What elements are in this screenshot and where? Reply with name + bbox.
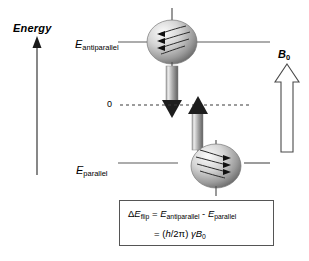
down-gradient-arrow-shaft	[166, 66, 178, 104]
formula-e-anti-sub: antiparallel	[167, 213, 200, 220]
emission-arrow	[162, 66, 182, 118]
level-label-antiparallel: Eantiparallel	[75, 34, 119, 52]
formula-minus: -	[202, 208, 205, 219]
precession-arrowheads-right	[223, 155, 231, 175]
formula-paren-close: )	[185, 228, 188, 239]
b0-subscript: 0	[286, 53, 290, 62]
energy-axis-title: Energy	[13, 22, 52, 34]
formula-line-2: = (h/2π) γB0	[154, 228, 206, 240]
formula-equals-2: =	[154, 228, 160, 239]
formula-e-flip-sub: flip	[141, 213, 150, 220]
formula-slash-two: /2	[171, 228, 179, 239]
nucleus-antiparallel	[147, 8, 197, 70]
level-subscript-antiparallel: antiparallel	[82, 43, 118, 52]
down-gradient-arrow-icon	[162, 100, 182, 118]
precession-arrowheads-left	[157, 31, 165, 51]
level-label-parallel: Eparallel	[76, 160, 108, 178]
formula-box: ΔEflip = Eantiparallel - Eparallel = (h/…	[119, 200, 274, 246]
up-gradient-arrow-shaft	[192, 112, 203, 150]
level-subscript-parallel: parallel	[83, 169, 107, 178]
energy-axis	[33, 36, 42, 175]
formula-line-1: ΔEflip = Eantiparallel - Eparallel	[128, 208, 236, 220]
formula-e-par-sub: parallel	[214, 213, 236, 220]
formula-b-sub: 0	[202, 233, 206, 240]
b0-field-arrow	[275, 64, 299, 152]
formula-equals-1: =	[152, 208, 158, 219]
up-arrow-icon	[33, 36, 42, 48]
zero-line-label: 0	[107, 99, 112, 109]
spinning-nucleus-sphere-icon	[147, 20, 197, 64]
b0-symbol: B	[278, 48, 286, 60]
hollow-up-arrow-icon	[275, 64, 299, 152]
b0-field-label: B0	[278, 48, 290, 62]
spinning-nucleus-sphere-icon-lower	[191, 144, 241, 188]
